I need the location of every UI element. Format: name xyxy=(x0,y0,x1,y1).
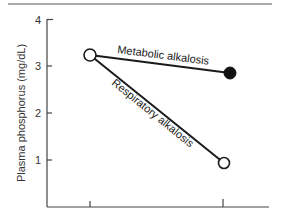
respiratory-open-circle-marker xyxy=(219,158,230,169)
respiratory-alkalosis-label: Respiratory alkalosis xyxy=(110,76,197,149)
metabolic-filled-circle-marker xyxy=(224,67,236,79)
y-tick-label-3: 3 xyxy=(35,60,41,72)
y-tick-label-1: 1 xyxy=(35,154,41,166)
chart: 4 3 2 1 Plasma phosphorus (mg/dL) Metabo… xyxy=(0,0,282,223)
y-tick-label-4: 4 xyxy=(35,14,41,26)
y-axis-title: Plasma phosphorus (mg/dL) xyxy=(15,44,27,182)
y-tick-label-2: 2 xyxy=(35,107,41,119)
metabolic-alkalosis-label: Metabolic alkalosis xyxy=(117,43,211,67)
baseline-open-circle-marker xyxy=(84,49,96,61)
